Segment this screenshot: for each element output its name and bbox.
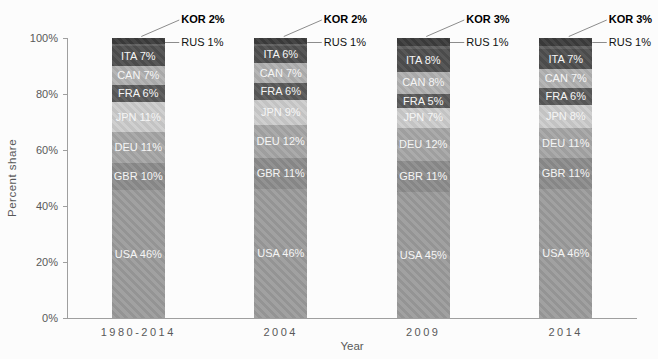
segment-label: CAN 7%	[545, 73, 587, 84]
segment-label: GBR 11%	[399, 171, 447, 182]
callout-leader-line	[141, 20, 179, 37]
segment-label: DEU 12%	[257, 136, 305, 147]
x-axis-line	[67, 318, 637, 319]
bar-2009: USA 45%GBR 11%DEU 12%JPN 7%FRA 5%CAN 8%I…	[397, 38, 450, 318]
bar-2014: USA 46%GBR 11%DEU 11%JPN 8%FRA 6%CAN 7%I…	[539, 38, 592, 318]
segment-usa: USA 45%	[397, 192, 450, 318]
segment-label: DEU 12%	[399, 139, 447, 150]
callout-leader-line	[284, 20, 322, 37]
x-tick-label: 2014	[496, 326, 636, 338]
segment-kor	[112, 38, 165, 44]
segment-can: CAN 8%	[397, 72, 450, 94]
segment-label: ITA 7%	[548, 54, 583, 65]
segment-can: CAN 7%	[254, 63, 307, 83]
segment-label: ITA 8%	[406, 55, 441, 66]
segment-ita: ITA 6%	[254, 46, 307, 63]
segment-jpn: JPN 7%	[397, 108, 450, 128]
y-tick-label: 100%	[0, 32, 58, 44]
segment-deu: DEU 12%	[254, 125, 307, 159]
segment-usa: USA 46%	[539, 189, 592, 318]
segment-gbr: GBR 11%	[539, 158, 592, 189]
segment-label: ITA 7%	[121, 51, 156, 62]
segment-rus	[539, 46, 592, 49]
segment-jpn: JPN 9%	[254, 100, 307, 125]
x-tick-label: 1980-2014	[68, 326, 208, 338]
y-axis-line	[67, 38, 68, 318]
y-tick-mark	[63, 150, 67, 151]
callout-kor-label: KOR 3%	[609, 13, 652, 25]
segment-ita: ITA 8%	[397, 49, 450, 71]
stacked-bar-chart: Percent share 0%20%40%60%80%100%USA 46%G…	[0, 0, 658, 359]
segment-can: CAN 7%	[539, 69, 592, 89]
bar-2004: USA 46%GBR 11%DEU 12%JPN 9%FRA 6%CAN 7%I…	[254, 38, 307, 318]
segment-label: USA 46%	[542, 248, 589, 259]
x-tick-label: 2004	[211, 326, 351, 338]
x-tick-label: 2009	[353, 326, 493, 338]
segment-kor	[397, 38, 450, 46]
y-tick-mark	[63, 206, 67, 207]
segment-label: USA 45%	[400, 250, 447, 261]
segment-gbr: GBR 11%	[254, 158, 307, 189]
y-tick-label: 60%	[0, 144, 58, 156]
segment-label: CAN 7%	[117, 70, 159, 81]
segment-label: FRA 6%	[118, 88, 158, 99]
segment-ita: ITA 7%	[539, 49, 592, 69]
segment-label: JPN 11%	[116, 112, 161, 123]
segment-rus	[112, 44, 165, 47]
segment-deu: DEU 11%	[112, 132, 165, 162]
segment-label: GBR 11%	[542, 168, 590, 179]
y-tick-label: 80%	[0, 88, 58, 100]
callout-rus-label: RUS 1%	[181, 36, 223, 48]
segment-usa: USA 46%	[254, 189, 307, 318]
callout-rus-label: RUS 1%	[609, 36, 651, 48]
segment-kor	[539, 38, 592, 46]
segment-gbr: GBR 11%	[397, 161, 450, 192]
segment-deu: DEU 11%	[539, 128, 592, 159]
segment-label: JPN 9%	[261, 107, 301, 118]
segment-ita: ITA 7%	[112, 46, 165, 65]
y-tick-mark	[63, 262, 67, 263]
y-tick-mark	[63, 94, 67, 95]
segment-label: USA 46%	[257, 248, 304, 259]
segment-fra: FRA 6%	[254, 83, 307, 100]
segment-fra: FRA 5%	[397, 94, 450, 108]
segment-label: GBR 11%	[257, 168, 305, 179]
segment-label: CAN 8%	[402, 77, 444, 88]
segment-can: CAN 7%	[112, 66, 165, 85]
segment-jpn: JPN 11%	[112, 102, 165, 132]
y-tick-label: 0%	[0, 312, 58, 324]
y-tick-label: 40%	[0, 200, 58, 212]
segment-label: JPN 7%	[403, 112, 443, 123]
callout-leader-line	[426, 20, 464, 37]
segment-fra: FRA 6%	[112, 85, 165, 102]
segment-rus	[397, 46, 450, 49]
callout-kor-label: KOR 2%	[324, 13, 367, 25]
y-tick-label: 20%	[0, 256, 58, 268]
segment-deu: DEU 12%	[397, 128, 450, 162]
segment-label: CAN 7%	[260, 68, 302, 79]
bar-1980-2014: USA 46%GBR 10%DEU 11%JPN 11%FRA 6%CAN 7%…	[112, 38, 165, 318]
y-tick-mark	[63, 38, 67, 39]
callout-kor-label: KOR 2%	[181, 13, 224, 25]
callout-rus-label: RUS 1%	[466, 36, 508, 48]
segment-kor	[254, 38, 307, 44]
segment-usa: USA 46%	[112, 190, 165, 318]
segment-gbr: GBR 10%	[112, 163, 165, 191]
plot-area: 0%20%40%60%80%100%USA 46%GBR 10%DEU 11%J…	[0, 0, 658, 359]
y-tick-mark	[63, 318, 67, 319]
callout-rus-label: RUS 1%	[324, 36, 366, 48]
x-axis-title: Year	[67, 340, 637, 352]
callout-kor-label: KOR 3%	[466, 13, 509, 25]
segment-jpn: JPN 8%	[539, 105, 592, 127]
segment-label: GBR 10%	[114, 171, 163, 182]
segment-label: JPN 8%	[546, 111, 586, 122]
segment-label: FRA 6%	[261, 86, 301, 97]
segment-label: DEU 11%	[542, 138, 589, 149]
segment-label: DEU 11%	[115, 142, 162, 153]
segment-rus	[254, 44, 307, 47]
segment-fra: FRA 6%	[539, 88, 592, 105]
segment-label: USA 46%	[115, 249, 162, 260]
segment-label: FRA 5%	[403, 96, 443, 107]
segment-label: ITA 6%	[263, 49, 298, 60]
segment-label: FRA 6%	[546, 91, 586, 102]
